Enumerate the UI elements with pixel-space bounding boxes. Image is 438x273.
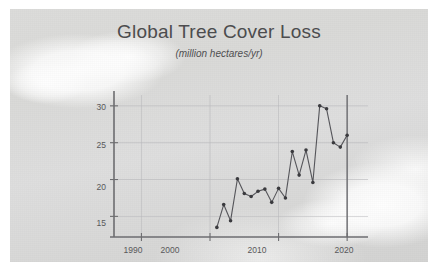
axis-lines — [110, 91, 368, 237]
chart-graphics — [10, 9, 428, 260]
gridlines — [110, 95, 368, 237]
sky-background-photo: Global Tree Cover Loss (million hectares… — [10, 9, 428, 262]
line-chart-plot: 30 25 20 15 1990 2000 2010 2020 — [10, 9, 428, 260]
photo-frame: Global Tree Cover Loss (million hectares… — [0, 0, 438, 273]
data-line-series — [217, 106, 347, 228]
tick-marks — [110, 106, 347, 241]
